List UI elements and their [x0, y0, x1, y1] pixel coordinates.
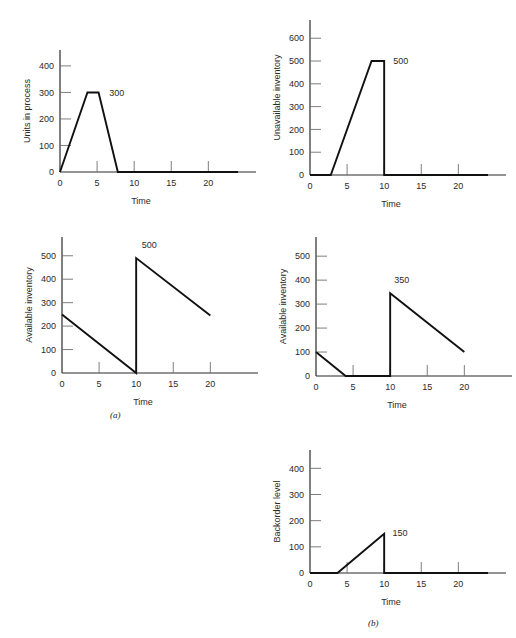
- group-label-b-wrap: (b): [368, 612, 408, 628]
- x-axis-title: Time: [131, 196, 151, 206]
- y-tick-label: 500: [41, 251, 56, 261]
- y-axis-title: Available inventory: [278, 268, 288, 344]
- figure-inventory-charts: 010020030040005101520300TimeUnits in pro…: [0, 0, 516, 638]
- group-label-b: (b): [368, 618, 379, 628]
- x-tick-label: 5: [345, 579, 350, 589]
- chart-panel-units-in-process: 010020030040005101520300TimeUnits in pro…: [0, 0, 258, 215]
- x-tick-label: 0: [57, 178, 62, 188]
- x-tick-label: 15: [416, 181, 426, 191]
- chart-body: 010020030040050060005101520500TimeUnavai…: [272, 20, 506, 209]
- y-tick-label: 600: [289, 33, 304, 43]
- y-axis-title: Backorder level: [272, 480, 282, 542]
- y-tick-label: 300: [289, 490, 304, 500]
- x-axis-title: Time: [387, 400, 407, 410]
- x-tick-label: 10: [379, 579, 389, 589]
- x-tick-label: 20: [453, 579, 463, 589]
- y-tick-label: 100: [289, 542, 304, 552]
- value-label-150: 150: [393, 528, 408, 538]
- x-tick-label: 15: [416, 579, 426, 589]
- value-label-300: 300: [109, 88, 124, 98]
- y-tick-label: 0: [305, 371, 310, 381]
- y-axis-title: Units in process: [22, 78, 32, 143]
- y-tick-label: 200: [39, 114, 54, 124]
- chart-svg-backorder-level: 010020030040005101520150TimeBackorder le…: [258, 410, 516, 638]
- x-tick-label: 20: [453, 181, 463, 191]
- y-tick-label: 200: [41, 321, 56, 331]
- y-tick-label: 100: [39, 141, 54, 151]
- y-axis-title: Unavailable inventory: [272, 54, 282, 141]
- y-tick-label: 200: [289, 516, 304, 526]
- chart-body: 010020030040005101520150TimeBackorder le…: [272, 450, 506, 607]
- y-tick-label: 200: [289, 125, 304, 135]
- y-tick-label: 400: [295, 275, 310, 285]
- chart-panel-available-inventory-b: 010020030040050005101520350TimeAvailable…: [258, 207, 516, 430]
- y-tick-label: 100: [41, 345, 56, 355]
- y-tick-label: 500: [289, 56, 304, 66]
- x-tick-label: 20: [459, 382, 469, 392]
- chart-svg-units-in-process: 010020030040005101520300TimeUnits in pro…: [0, 0, 258, 215]
- y-tick-label: 400: [39, 61, 54, 71]
- value-label-350: 350: [394, 275, 409, 285]
- x-tick-label: 20: [205, 379, 215, 389]
- y-tick-label: 0: [49, 167, 54, 177]
- x-tick-label: 5: [351, 382, 356, 392]
- y-tick-label: 400: [41, 274, 56, 284]
- data-series-line: [310, 61, 488, 175]
- group-label-a: (a): [110, 410, 121, 420]
- data-series-line: [60, 92, 238, 172]
- x-axis-title: Time: [381, 597, 401, 607]
- group-label-a-wrap: (a): [110, 404, 150, 420]
- x-tick-label: 15: [166, 178, 176, 188]
- chart-svg-available-inventory-a: 010020030040050005101520500TimeAvailable…: [0, 207, 258, 430]
- x-tick-label: 20: [203, 178, 213, 188]
- chart-svg-available-inventory-b: 010020030040050005101520350TimeAvailable…: [258, 207, 516, 430]
- chart-body: 010020030040005101520300TimeUnits in pro…: [22, 50, 256, 206]
- x-tick-label: 5: [95, 178, 100, 188]
- y-tick-label: 300: [41, 298, 56, 308]
- x-tick-label: 5: [345, 181, 350, 191]
- y-tick-label: 100: [289, 147, 304, 157]
- y-tick-label: 300: [289, 102, 304, 112]
- x-tick-label: 10: [131, 379, 141, 389]
- y-tick-label: 400: [289, 464, 304, 474]
- chart-panel-unavailable-inventory: 010020030040050060005101520500TimeUnavai…: [258, 0, 516, 215]
- chart-svg-unavailable-inventory: 010020030040050060005101520500TimeUnavai…: [258, 0, 516, 215]
- data-series-line: [310, 534, 488, 573]
- y-tick-label: 500: [295, 251, 310, 261]
- value-label-500: 500: [393, 56, 408, 66]
- value-label-500: 500: [142, 240, 157, 250]
- x-tick-label: 0: [307, 181, 312, 191]
- y-tick-label: 400: [289, 79, 304, 89]
- data-series-line: [62, 258, 210, 373]
- y-tick-label: 200: [295, 323, 310, 333]
- y-tick-label: 300: [295, 299, 310, 309]
- x-tick-label: 10: [385, 382, 395, 392]
- x-tick-label: 0: [59, 379, 64, 389]
- x-tick-label: 10: [379, 181, 389, 191]
- x-tick-label: 0: [307, 579, 312, 589]
- x-tick-label: 10: [129, 178, 139, 188]
- y-tick-label: 0: [299, 568, 304, 578]
- x-tick-label: 15: [422, 382, 432, 392]
- chart-panel-backorder-level: 010020030040005101520150TimeBackorder le…: [258, 410, 516, 638]
- x-tick-label: 15: [168, 379, 178, 389]
- chart-panel-available-inventory-a: 010020030040050005101520500TimeAvailable…: [0, 207, 258, 430]
- data-series-line: [316, 293, 464, 376]
- y-tick-label: 0: [51, 368, 56, 378]
- x-tick-label: 5: [97, 379, 102, 389]
- y-tick-label: 100: [295, 347, 310, 357]
- y-axis-title: Available inventory: [24, 267, 34, 343]
- y-tick-label: 300: [39, 88, 54, 98]
- chart-body: 010020030040050005101520350TimeAvailable…: [278, 237, 512, 410]
- x-tick-label: 0: [313, 382, 318, 392]
- y-tick-label: 0: [299, 170, 304, 180]
- chart-body: 010020030040050005101520500TimeAvailable…: [24, 237, 258, 407]
